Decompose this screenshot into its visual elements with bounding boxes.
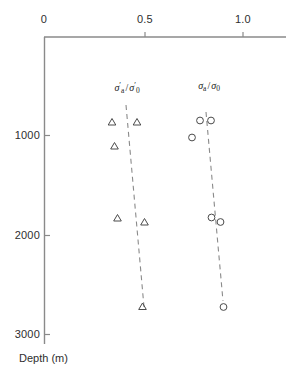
marker-triangle xyxy=(114,215,122,222)
series-label-sigma-prime-ratio: σ′a/σ′0 xyxy=(114,80,139,97)
y-tick-label-2000: 2000 xyxy=(15,230,40,241)
marker-circle xyxy=(189,134,196,141)
series-label-sigma-ratio: σa/σ0 xyxy=(198,80,220,95)
marker-triangle xyxy=(111,143,119,150)
axis-lines xyxy=(44,37,286,344)
y-axis-title: Depth (m) xyxy=(19,352,68,364)
marker-triangle xyxy=(139,303,147,310)
marker-circle xyxy=(208,117,215,124)
chart-container: 0 0.5 1.0 1000 2000 3000 σ′a/σ′0 σa/σ0 D… xyxy=(0,0,298,373)
plot-svg xyxy=(0,0,298,373)
x-axis-ticks xyxy=(145,32,243,37)
marker-triangle xyxy=(133,119,141,126)
y-tick-label-1000: 1000 xyxy=(15,130,40,141)
x-tick-label-0: 0 xyxy=(41,14,47,25)
subscript-0: 0 xyxy=(216,84,220,93)
trend-lines xyxy=(126,105,223,307)
subscript-0: 0 xyxy=(136,86,140,95)
marker-circle xyxy=(217,219,224,226)
series-markers-sigma xyxy=(189,117,227,310)
x-tick-label-0.5: 0.5 xyxy=(137,14,153,25)
marker-triangle xyxy=(108,119,116,126)
marker-triangle xyxy=(141,219,149,226)
y-tick-label-3000: 3000 xyxy=(15,329,40,340)
marker-circle xyxy=(220,304,227,311)
series-markers-sigma-prime xyxy=(108,119,148,310)
trend-line-sigma-prime xyxy=(126,105,144,307)
trend-line-sigma xyxy=(206,112,223,301)
marker-circle xyxy=(208,214,215,221)
x-tick-label-1.0: 1.0 xyxy=(235,14,251,25)
marker-circle xyxy=(197,117,204,124)
